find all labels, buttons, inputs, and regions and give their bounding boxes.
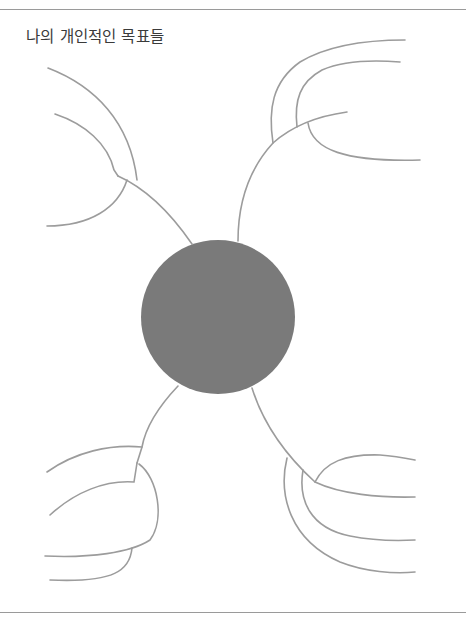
mind-map-diagram xyxy=(0,0,467,624)
branch-top-left xyxy=(47,68,192,244)
bubble-bottom-right-outer xyxy=(284,458,415,573)
bubble-top-right-outer xyxy=(271,40,405,143)
branch-line-bottom-right xyxy=(252,388,415,497)
branch-line-bottom-left xyxy=(137,386,178,463)
bubble-bottom-right-top xyxy=(315,455,415,482)
bubble-bottom-left-top xyxy=(47,446,142,472)
bubble-bottom-left-loop xyxy=(45,464,158,556)
bubble-top-right-middle xyxy=(296,61,400,127)
bubble-top-right-lower xyxy=(308,123,420,160)
center-circle xyxy=(141,240,295,394)
branch-line-top-right xyxy=(238,112,347,241)
bottom-rule xyxy=(0,612,466,613)
branch-bottom-right xyxy=(252,388,415,573)
branch-line-top-left xyxy=(118,176,192,244)
branch-top-right xyxy=(238,40,420,241)
bubble-bottom-left-bottom xyxy=(50,548,132,580)
bubble-bottom-left-middle xyxy=(50,463,137,515)
bubble-bottom-right-inner xyxy=(302,470,415,541)
bubble-top-left-lower xyxy=(47,180,127,226)
bubble-top-left-inner xyxy=(55,114,118,176)
bubble-top-left-outer xyxy=(48,68,137,180)
branch-bottom-left xyxy=(45,386,178,580)
